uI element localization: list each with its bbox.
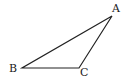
vertex-label-c: C xyxy=(80,66,88,79)
vertex-label-a: A xyxy=(111,2,121,15)
triangle-abc xyxy=(22,16,112,68)
vertex-label-b: B xyxy=(9,62,17,75)
triangle-diagram: A B C xyxy=(0,0,126,83)
